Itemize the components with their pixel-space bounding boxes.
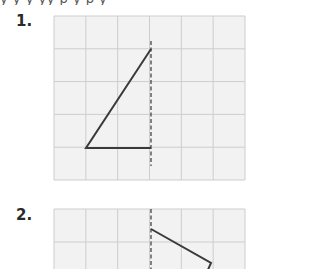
problem-2-grid-figure (0, 0, 333, 269)
problem-2-grid-svg (0, 0, 333, 269)
